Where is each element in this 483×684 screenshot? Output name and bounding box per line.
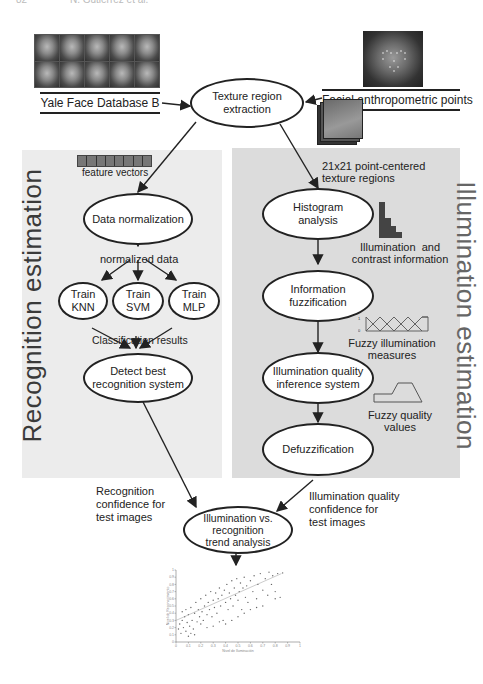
page-number: 82 bbox=[16, 0, 27, 5]
recognition-estimation-title: Recognition estimation bbox=[17, 156, 48, 456]
svg-text:0.4: 0.4 bbox=[223, 644, 228, 648]
train-knn-node[interactable]: Train KNN bbox=[58, 282, 108, 320]
svg-text:0.8: 0.8 bbox=[273, 644, 278, 648]
face-thumbnail bbox=[35, 62, 59, 88]
svg-text:0.3: 0.3 bbox=[211, 644, 216, 648]
yale-database-label: Yale Face Database B bbox=[40, 92, 160, 114]
histogram-icon bbox=[378, 200, 404, 238]
scatter-ylabel: Nivel de Reconocimiento bbox=[166, 587, 170, 626]
svg-text:0: 0 bbox=[172, 640, 174, 644]
svg-text:0.1: 0.1 bbox=[186, 644, 191, 648]
face-thumbnail bbox=[110, 35, 134, 61]
face-thumbnail bbox=[135, 35, 159, 61]
classification-results-label: Classification results bbox=[92, 334, 182, 347]
face-thumbnail bbox=[60, 35, 84, 61]
fuzzy-quality-icon bbox=[372, 380, 424, 404]
svg-text:0.9: 0.9 bbox=[169, 575, 174, 579]
svg-text:0: 0 bbox=[175, 644, 177, 648]
fuzzy-membership-icon: 1 0 bbox=[358, 314, 430, 334]
normalized-data-label: normalized data bbox=[100, 253, 176, 266]
illumination-estimation-title: Illumination estimation bbox=[450, 166, 481, 466]
svg-text:0.5: 0.5 bbox=[236, 644, 241, 648]
running-head: N. Gutiérrez et al. bbox=[70, 0, 148, 5]
illumination-contrast-label: Illumination and contrast information bbox=[340, 241, 460, 265]
svg-text:0.2: 0.2 bbox=[169, 626, 174, 630]
train-svm-node[interactable]: Train SVM bbox=[112, 282, 164, 320]
recognition-confidence-label: Recognition confidence for test images bbox=[96, 485, 165, 524]
fuzzy-quality-label: Fuzzy quality values bbox=[360, 409, 440, 433]
svg-text:0.9: 0.9 bbox=[285, 644, 290, 648]
svg-text:0.2: 0.2 bbox=[198, 644, 203, 648]
feature-vectors-label: feature vectors bbox=[82, 166, 148, 179]
texture-regions-label: 21x21 point-centered texture regions bbox=[322, 160, 425, 184]
fuzzy-axis-top: 1 bbox=[358, 316, 361, 321]
face-thumbnail bbox=[135, 62, 159, 88]
svg-text:0.8: 0.8 bbox=[169, 583, 174, 587]
texture-extraction-node[interactable]: Texture region extraction bbox=[190, 78, 304, 128]
face-thumbnail bbox=[85, 35, 109, 61]
scatter-xlabel: Nivel de Iluminación bbox=[222, 649, 253, 653]
illumination-confidence-label: Illumination quality confidence for test… bbox=[309, 490, 400, 529]
page-header: 82 N. Gutiérrez et al. bbox=[16, 0, 148, 5]
face-thumbnail bbox=[35, 35, 59, 61]
facial-points-photo bbox=[363, 31, 423, 87]
face-thumbnail bbox=[85, 62, 109, 88]
yale-face-thumbnails bbox=[34, 34, 160, 88]
fuzzy-axis-bottom: 0 bbox=[358, 328, 361, 333]
fuzzy-illumination-label: Fuzzy illumination measures bbox=[346, 337, 438, 361]
svg-text:0.1: 0.1 bbox=[169, 633, 174, 637]
texture-stack-icon bbox=[323, 99, 363, 139]
svg-text:0.7: 0.7 bbox=[260, 644, 265, 648]
svg-text:0.6: 0.6 bbox=[248, 644, 253, 648]
face-thumbnail bbox=[110, 62, 134, 88]
data-normalization-node[interactable]: Data normalization bbox=[83, 193, 193, 245]
detect-best-node[interactable]: Detect best recognition system bbox=[83, 353, 193, 403]
face-thumbnail bbox=[60, 62, 84, 88]
scatter-plot: 00.10.20.30.40.50.60.70.80.9100.10.20.30… bbox=[166, 564, 316, 664]
svg-text:1: 1 bbox=[299, 644, 301, 648]
defuzzification-node[interactable]: Defuzzification bbox=[262, 423, 374, 476]
trend-analysis-node[interactable]: Illumination vs. recognition trend analy… bbox=[183, 506, 293, 554]
svg-text:1: 1 bbox=[172, 568, 174, 572]
train-mlp-node[interactable]: Train MLP bbox=[168, 282, 220, 320]
histogram-analysis-node[interactable]: Histogram analysis bbox=[262, 188, 374, 240]
anthropometric-points-icon bbox=[363, 31, 423, 87]
